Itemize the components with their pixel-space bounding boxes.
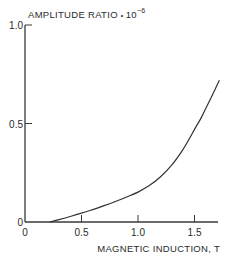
series-line-amplitude-ratio <box>50 80 220 222</box>
y-axis-label: AMPLITUDE RATIO • 10−6 <box>28 7 146 20</box>
series <box>50 80 220 222</box>
labels: AMPLITUDE RATIO • 10−6MAGNETIC INDUCTION… <box>28 7 220 254</box>
y-tick-label: 0.5 <box>9 119 23 130</box>
x-tick-label: 0 <box>22 227 28 238</box>
x-tick-label: 0.5 <box>75 227 89 238</box>
y-tick-label: 1.0 <box>9 20 23 31</box>
x-tick-label: 1.5 <box>188 227 202 238</box>
axes <box>25 25 218 222</box>
chart: 00.51.000.51.01.5 AMPLITUDE RATIO • 10−6… <box>0 0 229 258</box>
x-tick-label: 1.0 <box>131 227 145 238</box>
x-axis-label: MAGNETIC INDUCTION, T <box>97 243 220 254</box>
